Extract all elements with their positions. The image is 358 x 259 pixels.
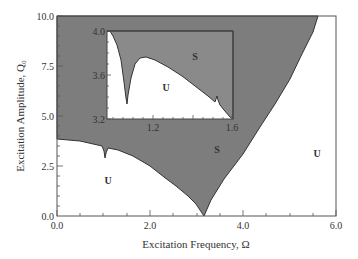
region-label-u-right: U <box>313 148 320 159</box>
stability-chart: 0.0 2.0 4.0 6.0 0.0 2.5 5.0 7.5 10.0 Exc… <box>0 0 358 259</box>
y-tick-2-5: 2.5 <box>42 161 55 172</box>
x-axis-label: Excitation Frequency, Ω <box>142 238 249 250</box>
x-tick-2: 2.0 <box>144 220 157 231</box>
inset-x-tick-1-2: 1.2 <box>147 122 160 133</box>
y-tick-7-5: 7.5 <box>42 61 55 72</box>
x-tick-6: 6.0 <box>330 220 343 231</box>
x-axis-ticks <box>57 210 336 216</box>
inset-plot: 4.0 3.6 3.2 1.2 1.6 S U <box>93 26 239 133</box>
inset-y-tick-3-2: 3.2 <box>93 114 106 125</box>
inset-x-tick-1-6: 1.6 <box>226 122 239 133</box>
y-tick-0: 0.0 <box>42 211 55 222</box>
inset-y-tick-4-0: 4.0 <box>93 26 106 37</box>
inset-region-label-u: U <box>162 82 169 93</box>
inset-y-tick-3-6: 3.6 <box>93 70 106 81</box>
y-tick-5: 5.0 <box>42 111 55 122</box>
y-tick-10: 10.0 <box>37 11 55 22</box>
x-tick-4: 4.0 <box>237 220 250 231</box>
region-label-u-left: U <box>104 175 111 186</box>
inset-region-label-s: S <box>192 51 198 62</box>
y-axis-label: Excitation Amplitude, Q₀ <box>14 60 26 172</box>
region-label-s: S <box>214 144 220 155</box>
